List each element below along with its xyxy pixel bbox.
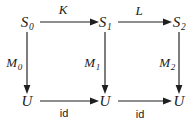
node-u0-base: U bbox=[21, 93, 32, 109]
edge-label-k: K bbox=[59, 3, 68, 16]
node-u2-base: U bbox=[173, 93, 184, 109]
edge-label-m0: M0 bbox=[6, 56, 21, 69]
edge-label-m2: M2 bbox=[159, 56, 174, 69]
edge-label-m0-subscript: 0 bbox=[18, 62, 23, 72]
arrow-m2 bbox=[176, 32, 183, 94]
node-u1-base: U bbox=[99, 93, 110, 109]
edge-label-m2-base: M bbox=[159, 55, 170, 70]
node-s1-subscript: 1 bbox=[107, 22, 112, 32]
commutative-diagram: S0 S1 S2 U U U K L M0 M1 M2 id id bbox=[0, 0, 193, 121]
node-s2: S2 bbox=[173, 15, 186, 30]
edge-label-m2-subscript: 2 bbox=[171, 62, 176, 72]
node-s2-base: S bbox=[173, 14, 181, 30]
node-u1: U bbox=[99, 94, 110, 109]
arrow-m1 bbox=[102, 32, 109, 94]
arrow-l bbox=[118, 19, 172, 26]
arrow-k bbox=[40, 19, 99, 26]
edge-label-m1-base: M bbox=[84, 55, 95, 70]
arrow-m0 bbox=[24, 32, 31, 94]
node-s1: S1 bbox=[99, 15, 112, 30]
node-u0: U bbox=[21, 94, 32, 109]
arrow-id1 bbox=[40, 98, 99, 105]
node-s0-subscript: 0 bbox=[29, 22, 34, 32]
arrow-id2 bbox=[118, 98, 172, 105]
edge-label-k-base: K bbox=[59, 2, 68, 17]
edge-label-m0-base: M bbox=[6, 55, 17, 70]
node-s0-base: S bbox=[21, 14, 29, 30]
edge-label-id1-base: id bbox=[60, 107, 69, 119]
node-u2: U bbox=[173, 94, 184, 109]
edge-label-l: L bbox=[135, 4, 142, 17]
edge-label-l-base: L bbox=[135, 3, 142, 18]
edge-label-id2: id bbox=[136, 109, 145, 120]
node-s2-subscript: 2 bbox=[181, 22, 186, 32]
node-s1-base: S bbox=[99, 14, 107, 30]
edge-label-m1-subscript: 1 bbox=[96, 62, 101, 72]
node-s0: S0 bbox=[21, 15, 34, 30]
edge-label-m1: M1 bbox=[84, 56, 99, 69]
edge-label-id2-base: id bbox=[136, 108, 145, 120]
edge-label-id1: id bbox=[60, 108, 69, 119]
